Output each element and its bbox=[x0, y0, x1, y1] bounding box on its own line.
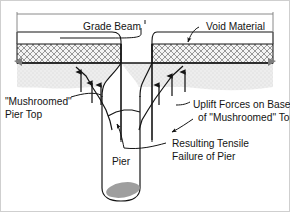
label-grade-beam: Grade Beam bbox=[83, 21, 141, 32]
label-resulting-tensile-line1: Resulting Tensile bbox=[172, 138, 249, 149]
mushroomed-leader bbox=[71, 93, 101, 97]
cross-section-drawing: Grade Beam Void Material "Mushroomed" Pi… bbox=[0, 0, 290, 212]
void-material-leader bbox=[188, 27, 199, 42]
void-material-hatch bbox=[17, 44, 273, 63]
uplift-forces-leader bbox=[176, 102, 190, 105]
label-pier: Pier bbox=[112, 156, 131, 167]
void-material-left-band bbox=[17, 44, 121, 63]
label-uplift-forces-line1: Uplift Forces on Base bbox=[193, 99, 290, 110]
label-resulting-tensile-line2: Failure of Pier bbox=[172, 151, 236, 162]
figure-canvas: Grade Beam Void Material "Mushroomed" Pi… bbox=[0, 0, 290, 212]
void-material-right-band bbox=[152, 44, 273, 63]
label-void-material: Void Material bbox=[206, 21, 265, 32]
label-mushroomed-pier-top-line2: Pier Top bbox=[5, 109, 43, 120]
label-mushroomed-pier-top-line1: "Mushroomed" bbox=[5, 96, 72, 107]
grade-beam-outline bbox=[17, 32, 273, 44]
label-uplift-forces-line2: of "Mushroomed" Top bbox=[198, 112, 290, 123]
